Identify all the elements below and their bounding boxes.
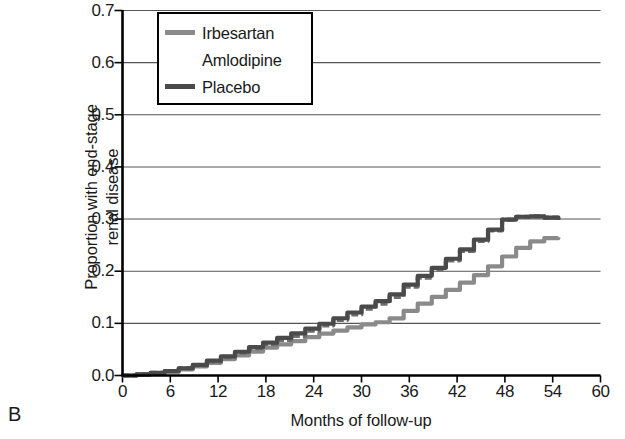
figure-panel-b: 0.00.10.20.30.40.50.60.7 061218243036424… <box>0 0 625 439</box>
x-axis-title: Months of follow-up <box>122 411 600 430</box>
legend-item: Amlodipine <box>165 46 311 73</box>
legend-item: Placebo <box>165 73 311 100</box>
x-axis-tick-labels: 06121824303642485460 <box>0 383 625 407</box>
x-tick-label: 48 <box>485 383 525 401</box>
x-tick-label: 42 <box>437 383 477 401</box>
y-axis-title-line-1: Proportion with end-stage <box>81 104 102 290</box>
y-axis-title-line-2: renal disease <box>102 149 123 246</box>
legend-label: Amlodipine <box>202 51 282 69</box>
panel-letter: B <box>8 404 21 424</box>
chart-legend: IrbesartanAmlodipinePlacebo <box>157 12 313 105</box>
y-tick-label: 0.7 <box>68 2 114 19</box>
legend-label: Placebo <box>202 78 260 96</box>
x-tick-label: 18 <box>246 383 286 401</box>
series-line-irbesartan <box>123 237 559 375</box>
legend-swatch-icon <box>165 30 195 35</box>
legend-swatch-icon <box>165 84 195 89</box>
series-line-placebo <box>123 216 559 375</box>
x-tick-label: 30 <box>342 383 382 401</box>
x-tick-label: 54 <box>533 383 573 401</box>
legend-label: Irbesartan <box>202 24 274 42</box>
x-tick-label: 12 <box>198 383 238 401</box>
x-tick-label: 0 <box>103 383 143 401</box>
x-tick-label: 6 <box>150 383 190 401</box>
legend-swatch-icon <box>165 57 195 62</box>
series-line-amlodipine <box>123 216 559 375</box>
y-tick-label: 0.0 <box>68 367 114 384</box>
x-tick-label: 36 <box>389 383 429 401</box>
x-tick-label: 60 <box>581 383 621 401</box>
legend-item: Irbesartan <box>165 19 311 46</box>
data-series-group <box>123 216 559 375</box>
y-axis-title: Proportion with end-stage renal disease <box>80 32 124 362</box>
x-tick-label: 24 <box>294 383 334 401</box>
